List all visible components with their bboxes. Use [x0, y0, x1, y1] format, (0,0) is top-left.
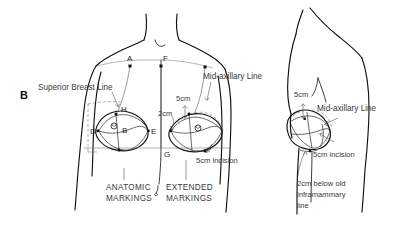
mid-axillary-line-side-label: Mid-axillary Line: [317, 104, 377, 113]
extended-caption-line2: MARKINGS: [166, 194, 212, 203]
clavicle-guide-line: [97, 60, 213, 68]
mid-axillary-line-front-label: Mid-axillary Line: [203, 72, 263, 81]
point-d-dot: [97, 130, 100, 133]
frontal-torso-figure: B Superior Breast Line Mid-axillary Line…: [20, 14, 263, 212]
right-breast-outline: [169, 114, 222, 152]
oblique-axillary-fold: [312, 78, 318, 96]
extended-caption-line1: EXTENDED: [166, 183, 213, 192]
five-cm-side-label: 5cm: [294, 90, 308, 99]
panel-letter: B: [20, 89, 28, 101]
suprasternal-notch: [155, 40, 165, 46]
anatomic-caption-line1: ANATOMIC: [106, 183, 151, 192]
oblique-neck-stroke: [296, 10, 303, 34]
oblique-lateral-chest-fold: [318, 78, 326, 102]
superior-breast-line-leader: [112, 92, 118, 106]
oblique-back-outline: [362, 58, 369, 212]
point-label-a: A: [127, 54, 133, 63]
two-cm-front-label: 2cm: [158, 109, 172, 118]
incision-dot: [204, 150, 207, 153]
five-cm-incision-side-leader: [320, 134, 334, 142]
inframammary-note-arrow: [303, 151, 307, 155]
point-f-dot: [160, 65, 163, 68]
five-cm-incision-side-label: 5cm incision: [313, 150, 355, 159]
point-label-h: H: [121, 105, 127, 114]
five-cm-front-label: 5cm: [176, 94, 190, 103]
five-cm-incision-front-label: 5cm incision: [196, 156, 238, 165]
breast-marking-figure: B Superior Breast Line Mid-axillary Line…: [0, 0, 396, 226]
point-inferior-dot: [118, 149, 121, 152]
mid-axillary-front-leader: [207, 82, 211, 100]
left-breast-meridian: [116, 114, 119, 150]
neck-left-stroke: [144, 14, 147, 40]
left-shoulder-contour: [96, 40, 144, 66]
right-shoulder-contour: [179, 40, 225, 69]
inframammary-note-line2: inframammary: [297, 190, 346, 199]
right-breast-markings: [169, 112, 223, 152]
oblique-incision-dot: [309, 150, 312, 153]
oblique-arm-front-edge: [288, 34, 296, 114]
inframammary-note-line3: line: [297, 201, 309, 210]
oblique-breast-transverse: [292, 129, 330, 135]
mid-axillary-side-leader: [325, 118, 338, 124]
oblique-point-dot: [304, 118, 306, 120]
point-label-g: G: [164, 150, 170, 159]
point-label-f: F: [163, 54, 168, 63]
point-e-dot: [147, 130, 150, 133]
oblique-breast-meridian: [307, 112, 312, 148]
point-label-d: D: [90, 127, 96, 136]
point-label-b: B: [122, 126, 127, 135]
oblique-breast-markings: [287, 110, 332, 152]
oblique-shoulder-contour: [310, 8, 362, 58]
diagram-canvas: B Superior Breast Line Mid-axillary Line…: [0, 0, 396, 226]
right-nipple: [196, 126, 200, 128]
oblique-torso-figure: 5cm Mid-axillary Line 5cm incision 2cm b…: [287, 8, 377, 214]
inframammary-note-line1: 2cm below old: [297, 179, 346, 188]
superior-breast-line-label: Superior Breast Line: [38, 83, 113, 92]
right-point-medial-dot: [170, 130, 173, 133]
torso-right-outline: [225, 69, 231, 212]
umbilicus: [155, 193, 158, 196]
point-a-dot: [129, 65, 132, 68]
point-label-e: E: [151, 127, 156, 136]
umbilicus-mark: [156, 186, 158, 193]
left-nipple: [112, 124, 116, 126]
neck-right-stroke: [176, 14, 179, 40]
right-point-superior-dot: [188, 113, 191, 116]
anatomic-caption-line2: MARKINGS: [106, 194, 152, 203]
